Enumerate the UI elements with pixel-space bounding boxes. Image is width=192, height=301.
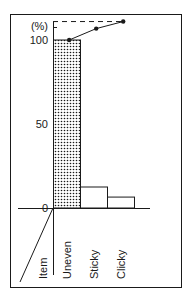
y-tick-label-100: 100	[30, 34, 48, 46]
y-tick-label-0: 0	[42, 202, 48, 214]
bar-uneven	[54, 40, 81, 208]
pareto-chart: (%) 050100 ItemUnevenStickyClicky	[0, 0, 192, 301]
x-tick-label-clicky: Clicky	[115, 249, 127, 279]
x-tick-label-uneven: Uneven	[61, 241, 73, 279]
y-axis-unit-label: (%)	[31, 20, 48, 32]
x-axis-label-item: Item	[37, 258, 49, 279]
bar-clicky	[108, 197, 135, 208]
bar-sticky	[81, 187, 108, 208]
y-tick-label-50: 50	[36, 118, 48, 130]
x-tick-label-sticky: Sticky	[88, 249, 100, 279]
cumulative-point-uneven	[67, 38, 71, 42]
cumulative-point-clicky	[121, 19, 125, 23]
cumulative-point-sticky	[94, 26, 98, 30]
